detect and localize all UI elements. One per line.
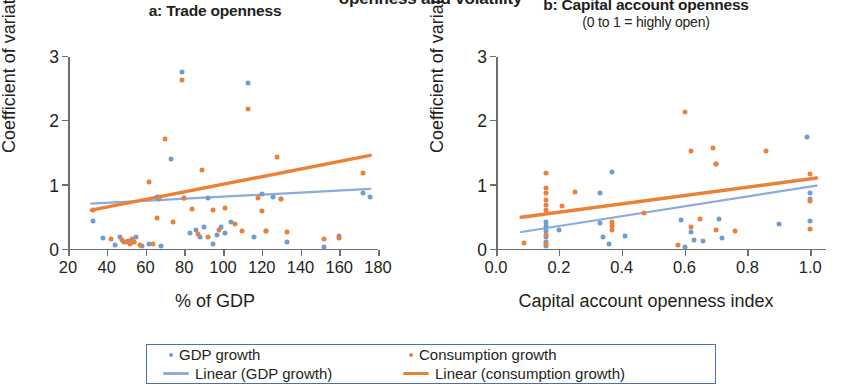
trend-line xyxy=(521,178,816,217)
scatter-point xyxy=(201,224,206,229)
panel-b-y-axis-title: Coefficient of variation xyxy=(427,0,448,153)
scatter-point xyxy=(205,195,210,200)
scatter-point xyxy=(808,199,813,204)
x-axis-tick xyxy=(685,250,687,256)
scatter-point xyxy=(275,154,280,159)
scatter-point xyxy=(522,240,527,245)
x-axis-tick xyxy=(378,250,380,256)
panel-a-x-axis-title: % of GDP xyxy=(0,291,430,312)
scatter-point xyxy=(222,231,227,236)
legend-dot-icon xyxy=(169,353,173,357)
scatter-point xyxy=(232,221,237,226)
x-axis-tick xyxy=(496,250,498,256)
scatter-point xyxy=(682,109,687,114)
scatter-point xyxy=(610,228,615,233)
scatter-point xyxy=(240,229,245,234)
y-axis-tick-label: 1 xyxy=(477,175,487,196)
panel-capital-account-openness: b: Capital account openness (0 to 1 = hi… xyxy=(431,0,861,330)
scatter-point xyxy=(692,237,697,242)
legend-label: Consumption growth xyxy=(419,346,557,363)
legend-item-gdp-growth: GDP growth xyxy=(163,346,403,363)
scatter-point xyxy=(222,205,227,210)
scatter-point xyxy=(764,148,769,153)
scatter-point xyxy=(641,210,646,215)
legend-item-consumption-growth: Consumption growth xyxy=(403,346,733,363)
x-axis-tick xyxy=(301,250,303,256)
scatter-point xyxy=(217,228,222,233)
scatter-point xyxy=(180,78,185,83)
scatter-point xyxy=(279,196,284,201)
x-axis-tick xyxy=(107,250,109,256)
scatter-point xyxy=(131,239,136,244)
legend-label: Linear (GDP growth) xyxy=(195,365,332,382)
x-axis-tick-label: 160 xyxy=(325,258,353,277)
scatter-point xyxy=(195,231,200,236)
scatter-point xyxy=(284,230,289,235)
scatter-point xyxy=(157,195,162,200)
panel-a-plot-area: 012320406080100120140160180 xyxy=(68,57,378,250)
scatter-point xyxy=(180,69,185,74)
y-axis-tick-label: 3 xyxy=(49,47,59,68)
scatter-point xyxy=(544,191,549,196)
x-axis-tick-label: 80 xyxy=(175,258,193,277)
scatter-point xyxy=(188,230,193,235)
x-axis-tick xyxy=(68,250,70,256)
scatter-point xyxy=(271,194,276,199)
y-axis-tick-label: 0 xyxy=(49,240,59,261)
y-axis-tick xyxy=(490,120,496,122)
scatter-point xyxy=(688,224,693,229)
trend-line xyxy=(91,155,370,210)
legend-line-icon xyxy=(163,372,189,375)
scatter-point xyxy=(199,167,204,172)
x-axis-tick xyxy=(184,250,186,256)
scatter-point xyxy=(544,208,549,213)
panel-trade-openness: a: Trade openness Coefficient of variati… xyxy=(0,0,430,330)
y-axis-tick xyxy=(490,184,496,186)
panel-b-subtitle: (0 to 1 = highly open) xyxy=(431,14,861,30)
scatter-point xyxy=(168,156,173,161)
x-axis-tick xyxy=(622,250,624,256)
x-axis-tick-label: 40 xyxy=(98,258,116,277)
scatter-point xyxy=(610,170,615,175)
panel-b-title: b: Capital account openness xyxy=(431,0,861,14)
scatter-point xyxy=(805,135,810,140)
x-axis-tick-label: 60 xyxy=(136,258,154,277)
scatter-point xyxy=(720,235,725,240)
x-axis-tick-label: 20 xyxy=(59,258,77,277)
scatter-point xyxy=(284,240,289,245)
scatter-point xyxy=(714,161,719,166)
scatter-point xyxy=(205,235,210,240)
legend-item-linear-gdp-growth: Linear (GDP growth) xyxy=(163,365,403,382)
scatter-point xyxy=(259,209,264,214)
panel-b-plot-area: 01230.00.20.40.60.81.0 xyxy=(496,57,826,250)
scatter-point xyxy=(600,235,605,240)
x-axis-tick-label: 180 xyxy=(364,258,392,277)
figure-root: openness and volatility a: Trade opennes… xyxy=(0,0,861,386)
scatter-point xyxy=(717,217,722,222)
x-axis-tick xyxy=(747,250,749,256)
scatter-point xyxy=(182,195,187,200)
x-axis-tick-label: 100 xyxy=(209,258,237,277)
scatter-point xyxy=(190,206,195,211)
scatter-point xyxy=(211,208,216,213)
legend-dot-icon xyxy=(409,353,413,357)
x-axis-tick-label: 140 xyxy=(287,258,315,277)
scatter-point xyxy=(676,242,681,247)
scatter-point xyxy=(607,241,612,246)
scatter-point xyxy=(732,228,737,233)
x-axis-tick-label: 0.2 xyxy=(547,258,570,277)
scatter-point xyxy=(572,190,577,195)
scatter-point xyxy=(808,226,813,231)
x-axis-tick xyxy=(146,250,148,256)
y-axis-tick-label: 2 xyxy=(477,111,487,132)
y-axis-tick-label: 1 xyxy=(49,175,59,196)
panel-a-title: a: Trade openness xyxy=(0,2,430,20)
y-axis-tick xyxy=(62,120,68,122)
x-axis-tick-label: 0.0 xyxy=(485,258,508,277)
panel-a-y-axis-title: Coefficient of variation xyxy=(0,0,20,153)
scatter-point xyxy=(321,245,326,250)
scatter-point xyxy=(776,221,781,226)
scatter-point xyxy=(688,148,693,153)
scatter-point xyxy=(112,242,117,247)
scatter-point xyxy=(162,136,167,141)
